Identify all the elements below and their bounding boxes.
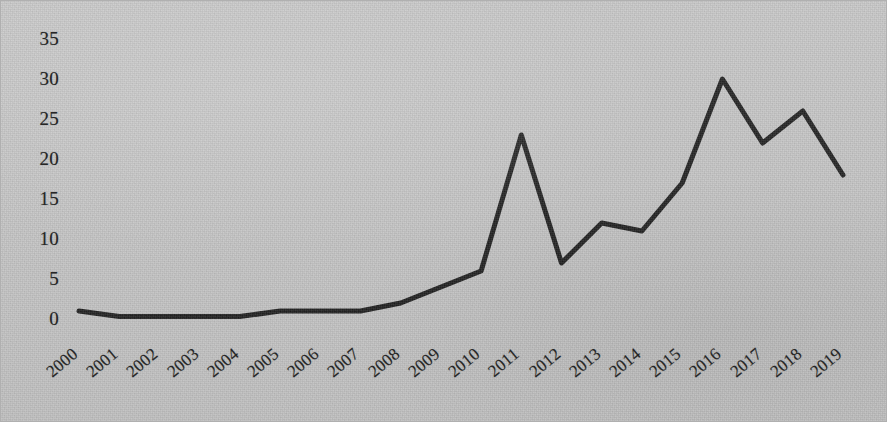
- line-chart-figure: 05101520253035 2000200120022003200420052…: [0, 0, 887, 422]
- data-series-line: [79, 79, 843, 317]
- y-tick-label: 25: [15, 109, 59, 128]
- y-tick-label: 20: [15, 149, 59, 168]
- y-tick-label: 5: [15, 269, 59, 288]
- y-tick-label: 15: [15, 189, 59, 208]
- y-tick-label: 35: [15, 29, 59, 48]
- y-tick-label: 30: [15, 69, 59, 88]
- y-tick-label: 0: [15, 309, 59, 328]
- data-line-group: [79, 79, 843, 317]
- y-tick-label: 10: [15, 229, 59, 248]
